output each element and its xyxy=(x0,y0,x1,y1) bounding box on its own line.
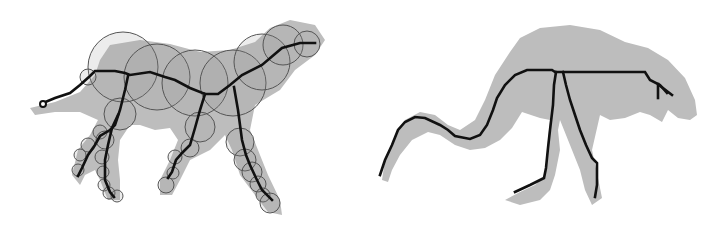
inscribed-circle xyxy=(74,149,86,161)
bird-silhouette xyxy=(382,25,697,205)
dog-inscribed-circles xyxy=(72,25,320,213)
inscribed-circle xyxy=(158,177,174,193)
dog-panel xyxy=(30,20,325,215)
inscribed-circle xyxy=(260,193,280,213)
tail-endpoint-node xyxy=(40,101,46,107)
figure-canvas xyxy=(0,0,721,231)
bird-panel xyxy=(380,25,697,205)
inscribed-circle xyxy=(97,166,109,178)
inscribed-circle xyxy=(185,112,215,142)
